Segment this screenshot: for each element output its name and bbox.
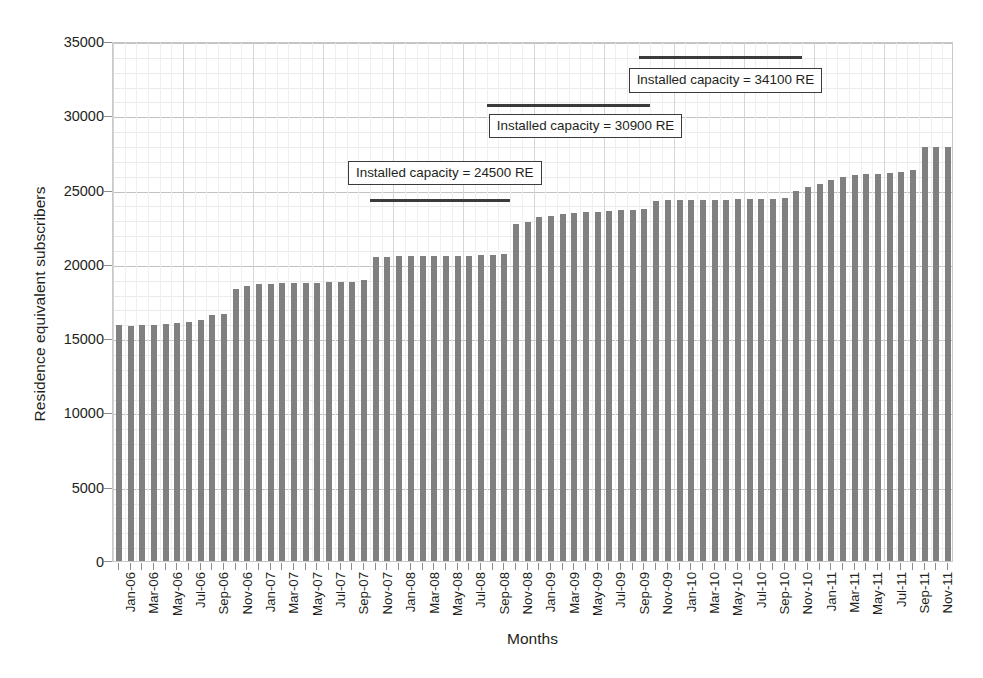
gridline-vertical-minor [767,43,768,561]
x-axis-tick-mark [200,563,201,570]
bar [910,170,916,561]
gridline-vertical-minor [428,43,429,561]
bar [443,256,449,561]
bar [933,147,939,562]
x-axis-tick-label: Mar-07 [286,572,301,614]
x-axis-tick-mark [316,563,317,570]
gridline-vertical-minor [277,43,278,561]
x-axis-tick-label: Mar-08 [427,572,442,614]
gridline-vertical-minor [417,43,418,561]
y-axis-tick-label: 25000 [30,183,104,199]
gridline-vertical-minor [241,43,242,561]
gridline-vertical-minor [755,43,756,561]
x-axis-tick-mark [293,563,294,570]
bar [244,286,250,561]
bar [723,200,729,561]
x-axis-tick-mark [258,563,259,570]
gridline-vertical-minor [440,43,441,561]
x-axis-tick-label: May-08 [450,572,465,616]
x-axis-tick-mark [363,563,364,570]
y-axis-tick-mark [104,116,112,117]
gridline-vertical-minor [942,43,943,561]
gridline-vertical-minor [358,43,359,561]
gridline-vertical [744,43,745,561]
gridline-vertical-minor [206,43,207,561]
x-axis-tick-mark [667,563,668,570]
bar [338,282,344,561]
bar [279,283,285,561]
bar [782,198,788,561]
x-axis-tick-label: Sep-08 [497,572,512,615]
x-axis-tick-mark [877,563,878,570]
gridline-vertical-minor [312,43,313,561]
x-axis-tick-mark [503,563,504,570]
gridline-vertical-minor [300,43,301,561]
y-axis-tick-label: 5000 [30,480,104,496]
x-axis-tick-label: Jul-08 [473,572,488,608]
gridline-vertical-minor [171,43,172,561]
x-axis-tick-label: Nov-09 [660,572,675,615]
x-axis-tick-mark [935,563,936,570]
y-axis-tick-mark [104,413,112,414]
bar [384,257,390,561]
x-axis-tick-mark [515,563,516,570]
bar [186,322,192,561]
y-axis-tick-label: 30000 [30,108,104,124]
capacity-line [639,56,803,59]
x-axis-tick-mark [690,563,691,570]
bar [560,214,566,561]
x-axis-tick-label: May-11 [870,572,885,615]
x-axis-tick-label: Jan-11 [824,572,839,611]
bar [256,284,262,561]
capacity-annotation-label: Installed capacity = 34100 RE [629,68,823,92]
x-axis-tick-mark [235,563,236,570]
x-axis-tick-label: Jul-09 [613,572,628,608]
x-axis-tick-mark [340,563,341,570]
x-axis-tick-mark [865,563,866,570]
bar [945,147,951,562]
capacity-annotation-label: Installed capacity = 24500 RE [348,161,542,185]
x-axis-tick-mark [749,563,750,570]
bar [641,209,647,561]
bar [151,325,157,561]
capacity-line [487,104,651,107]
x-axis-tick-mark [457,563,458,570]
x-axis-tick-mark [585,563,586,570]
bar [396,256,402,561]
gridline-vertical-minor [195,43,196,561]
bar [887,173,893,561]
x-axis-tick-mark [772,563,773,570]
gridline-vertical-minor [288,43,289,561]
capacity-annotation-label: Installed capacity = 30900 RE [489,114,683,138]
x-axis-tick-mark [900,563,901,570]
bar [922,147,928,561]
bar [291,283,297,561]
x-axis-tick-mark [492,563,493,570]
x-axis-tick-mark [737,563,738,570]
x-axis-tick-mark [854,563,855,570]
gridline-vertical [183,43,184,561]
x-axis-tick-mark [912,563,913,570]
capacity-line [370,199,510,202]
bar [198,320,204,561]
y-axis-tick-label: 10000 [30,405,104,421]
x-axis-tick-mark [433,563,434,570]
x-axis-tick-label: Jan-08 [403,572,418,612]
x-axis-tick-mark [573,563,574,570]
bar [700,200,706,561]
x-axis-tick-mark [118,563,119,570]
bar [828,180,834,561]
x-axis-tick-mark [375,563,376,570]
bar [793,191,799,561]
gridline-vertical-minor [230,43,231,561]
bar [174,323,180,561]
bar [303,283,309,561]
bar [665,200,671,561]
x-axis-tick-mark [562,563,563,570]
bar [875,174,881,561]
gridline-vertical-minor [779,43,780,561]
bar [163,324,169,561]
y-axis-tick-mark [104,488,112,489]
x-axis-tick-mark [246,563,247,570]
bar [408,256,414,561]
